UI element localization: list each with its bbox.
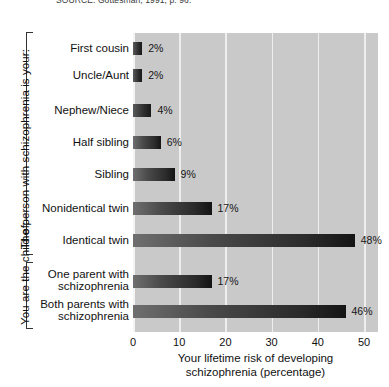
bar-value-label: 9% — [181, 168, 196, 181]
x-tick-10: 10 — [173, 336, 185, 348]
gridline-50 — [364, 33, 366, 332]
x-tick-20: 20 — [219, 336, 231, 348]
category-label: Uncle/Aunt — [29, 70, 129, 82]
x-axis-title: Your lifetime risk of developing schizop… — [133, 352, 378, 379]
x-tick-0: 0 — [130, 336, 136, 348]
category-label: Identical twin — [29, 235, 129, 247]
category-label: One parent with schizophrenia — [29, 269, 129, 292]
gridline-40 — [318, 33, 320, 332]
bar-value-label: 4% — [157, 104, 172, 117]
category-label: Nonidentical twin — [29, 203, 129, 215]
bar — [133, 202, 212, 215]
plot-area — [133, 33, 378, 332]
bar — [133, 136, 161, 149]
category-label: Sibling — [29, 169, 129, 181]
bar — [133, 168, 175, 181]
bar — [133, 42, 142, 55]
group-title: You are the child of: — [19, 222, 31, 325]
category-label: Half sibling — [29, 137, 129, 149]
bar-value-label: 17% — [218, 202, 239, 215]
category-label: Both parents with schizophrenia — [29, 299, 129, 322]
category-labels: First cousinUncle/AuntNephew/NieceHalf s… — [28, 0, 129, 387]
bar-value-label: 46% — [352, 305, 373, 318]
x-tick-40: 40 — [312, 336, 324, 348]
category-label: First cousin — [29, 43, 129, 55]
x-axis-ticks: 01020304050 — [0, 336, 389, 350]
bar-value-label: 17% — [218, 275, 239, 288]
bar-value-label: 2% — [148, 42, 163, 55]
bar — [133, 234, 355, 247]
bar-value-label: 48% — [361, 234, 382, 247]
bar — [133, 104, 151, 117]
gridline-30 — [272, 33, 274, 332]
x-tick-50: 50 — [358, 336, 370, 348]
category-label: Nephew/Niece — [29, 105, 129, 117]
bar-value-label: 2% — [148, 69, 163, 82]
bar — [133, 275, 212, 288]
group-title: The person with schizophrenia is your: — [19, 49, 31, 249]
bar-value-label: 6% — [167, 136, 182, 149]
x-tick-30: 30 — [265, 336, 277, 348]
bar — [133, 69, 142, 82]
bar — [133, 305, 346, 318]
